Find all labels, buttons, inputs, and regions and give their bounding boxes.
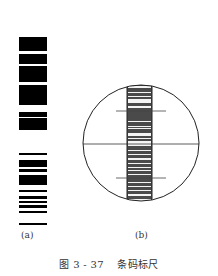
strip-light-band (128, 163, 151, 164)
panel-b-label: (b) (135, 230, 148, 240)
strip-light-band (128, 92, 151, 93)
barcode-bar (19, 205, 47, 208)
strip-light-band (128, 128, 151, 129)
strip-light-band (128, 170, 151, 171)
barcode-bar (19, 85, 47, 105)
barcode-bar (19, 190, 47, 192)
barcode-bar (19, 54, 47, 64)
strip-light-band (128, 99, 151, 103)
strip-light-band (128, 194, 151, 196)
barcode-bar (19, 201, 47, 203)
strip-light-band (128, 154, 151, 155)
barcode-bar (19, 223, 47, 225)
strip-light-band (128, 167, 151, 168)
barcode-bar (19, 66, 47, 82)
caption-title: 条码标尺 (117, 259, 158, 270)
panel-b-reticle-view (83, 84, 199, 203)
strip-light-band (128, 86, 151, 88)
barcode-bar (19, 175, 47, 185)
figure: (a) (b) 图 3 - 37 条码标尺 (0, 0, 218, 276)
strip-light-band (128, 141, 151, 146)
barcode-bar (19, 112, 47, 117)
strip-light-band (128, 126, 151, 127)
barcode-bar (19, 169, 47, 172)
strip-light-band (128, 150, 151, 151)
barcode-bar (19, 211, 47, 213)
panel-a-label: (a) (21, 230, 33, 240)
strip-light-band (128, 174, 151, 175)
figure-caption: 图 3 - 37 条码标尺 (0, 256, 218, 271)
panel-a-barcode (19, 37, 47, 225)
barcode-bar (19, 196, 47, 199)
strip-light-band (128, 158, 151, 160)
barcode-bar (19, 37, 47, 51)
strip-light-band (128, 106, 151, 108)
strip-light-band (128, 182, 151, 183)
strip-light-band (128, 121, 151, 122)
barcode-bar (19, 153, 47, 155)
strip-light-band (128, 186, 151, 187)
barcode-bar (19, 160, 47, 167)
barcode-bar (19, 118, 47, 130)
barcode-strip (127, 84, 152, 203)
strip-light-band (128, 138, 151, 139)
strip-light-band (128, 96, 151, 97)
strip-light-band (128, 133, 151, 136)
caption-number: 图 3 - 37 (59, 259, 103, 270)
strip-light-band (128, 190, 151, 191)
